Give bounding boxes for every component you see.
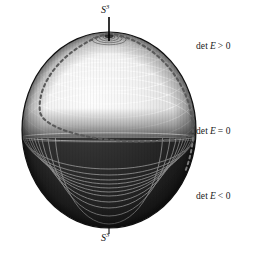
pole-label-bottom-superscript: 3 — [106, 231, 109, 238]
det-prefix: det — [196, 126, 208, 136]
pole-label-bottom: S3 — [101, 231, 109, 243]
det-prefix: det — [196, 191, 208, 201]
det-relation: > 0 — [218, 41, 231, 51]
det-relation: < 0 — [218, 191, 231, 201]
label-det-negative: det E < 0 — [196, 191, 231, 201]
sphere-body — [20, 28, 198, 228]
label-det-positive: det E > 0 — [196, 41, 231, 51]
pole-label-top: S3 — [101, 3, 109, 15]
pole-label-top-superscript: 3 — [106, 3, 109, 10]
det-relation: = 0 — [218, 126, 231, 136]
label-det-zero: det E = 0 — [196, 126, 231, 136]
det-prefix: det — [196, 41, 208, 51]
sphere-limb-shading — [22, 32, 196, 228]
